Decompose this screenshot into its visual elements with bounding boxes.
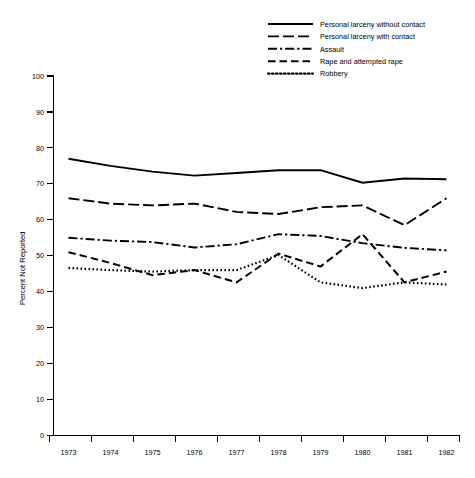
y-tick-label: 90 — [36, 108, 44, 117]
y-tick-label: 10 — [36, 395, 44, 404]
series-line-1 — [69, 198, 447, 225]
x-tick-label: 1977 — [229, 448, 245, 457]
series-line-2 — [69, 234, 447, 250]
y-tick-label: 50 — [36, 251, 44, 260]
y-tick-label: 40 — [36, 287, 44, 296]
axis-lines — [54, 76, 461, 436]
y-axis: 0102030405060708090100 — [32, 72, 54, 441]
y-axis-title: Percent Not Reported — [18, 232, 27, 305]
x-tick-label: 1980 — [355, 448, 371, 457]
x-tick-label: 1974 — [103, 448, 119, 457]
legend-label-0: Personal larceny without contact — [320, 20, 425, 29]
y-tick-label: 100 — [32, 72, 44, 81]
x-tick-label: 1975 — [145, 448, 161, 457]
legend-label-4: Robbery — [320, 69, 348, 78]
chart-series-group — [69, 159, 447, 288]
x-axis: 1973197419751976197719781979198019811982 — [50, 436, 460, 458]
chart-container: Personal larceny without contactPersonal… — [0, 0, 475, 478]
chart-legend: Personal larceny without contactPersonal… — [268, 20, 425, 79]
x-tick-label: 1973 — [61, 448, 77, 457]
x-tick-label: 1981 — [397, 448, 413, 457]
y-tick-label: 80 — [36, 144, 44, 153]
series-line-0 — [69, 159, 447, 183]
x-tick-label: 1976 — [187, 448, 203, 457]
y-tick-label: 20 — [36, 359, 44, 368]
x-tick-label: 1979 — [313, 448, 329, 457]
y-tick-label: 30 — [36, 323, 44, 332]
y-tick-label: 60 — [36, 215, 44, 224]
line-chart: Personal larceny without contactPersonal… — [0, 0, 475, 478]
y-tick-label: 0 — [40, 431, 44, 440]
x-tick-label: 1978 — [271, 448, 287, 457]
legend-label-2: Assault — [320, 45, 344, 54]
x-tick-label: 1982 — [439, 448, 455, 457]
legend-label-1: Personal larceny with contact — [320, 32, 415, 41]
legend-label-3: Rape and attempted rape — [320, 57, 403, 66]
series-line-4 — [69, 255, 447, 288]
y-tick-label: 70 — [36, 179, 44, 188]
